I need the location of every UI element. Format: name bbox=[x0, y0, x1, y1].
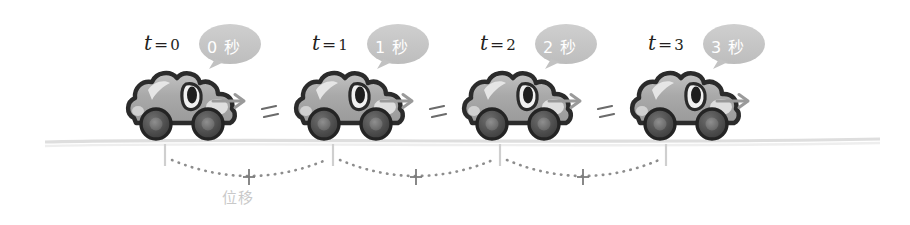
time-variable-3: t bbox=[648, 31, 656, 55]
time-equals-1: = bbox=[320, 34, 338, 54]
ground-line bbox=[45, 139, 880, 146]
bubble-label-1: 1 秒 bbox=[375, 34, 409, 58]
time-value-2: 2 bbox=[506, 36, 516, 54]
time-value-3: 3 bbox=[674, 36, 684, 54]
time-variable-1: t bbox=[312, 31, 320, 55]
arc-midpoint-marker bbox=[577, 169, 589, 185]
figure-canvas: t=0 t=1 t=2 t=3 0 秒 1 秒 2 秒 3 秒 位移 bbox=[0, 0, 910, 225]
time-variable-0: t bbox=[144, 31, 152, 55]
time-variable-2: t bbox=[480, 31, 488, 55]
time-equals-2: = bbox=[488, 34, 506, 54]
time-value-0: 0 bbox=[170, 36, 180, 54]
time-equals-0: = bbox=[152, 34, 170, 54]
motion-lines-1 bbox=[262, 106, 278, 117]
time-label-2: t=2 bbox=[480, 31, 516, 55]
time-label-1: t=1 bbox=[312, 31, 348, 55]
car-icon-2 bbox=[464, 73, 571, 139]
bubble-label-2: 2 秒 bbox=[543, 34, 577, 58]
arc-midpoint-marker bbox=[243, 169, 255, 185]
motion-lines-3 bbox=[598, 106, 614, 117]
motion-lines-2 bbox=[430, 106, 446, 117]
car-icon-1 bbox=[296, 73, 403, 139]
displacement-caption: 位移 bbox=[222, 186, 254, 207]
bubble-label-3: 3 秒 bbox=[711, 34, 745, 58]
time-value-1: 1 bbox=[338, 36, 348, 54]
time-equals-3: = bbox=[656, 34, 674, 54]
measurement-ticks bbox=[165, 144, 666, 166]
time-label-3: t=3 bbox=[648, 31, 684, 55]
arc-midpoint-marker bbox=[410, 169, 422, 185]
time-label-0: t=0 bbox=[144, 31, 180, 55]
car-icon-0 bbox=[128, 73, 235, 139]
bubble-label-0: 0 秒 bbox=[207, 34, 241, 58]
car-icon-3 bbox=[632, 73, 739, 139]
physics-displacement-illustration bbox=[0, 0, 910, 225]
